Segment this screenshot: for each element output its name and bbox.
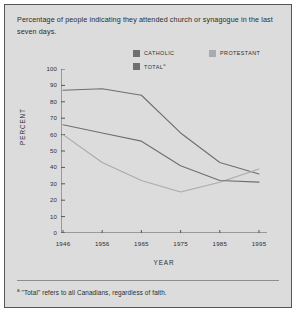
legend-item-protestant: PROTESTANT bbox=[209, 48, 260, 58]
y-axis-tick-label: 30 bbox=[35, 181, 57, 187]
footnote-marker: a bbox=[17, 288, 20, 293]
data-line-protestant bbox=[63, 135, 259, 192]
legend-label-protestant: PROTESTANT bbox=[220, 50, 260, 56]
x-axis-tick-label: 1985 bbox=[213, 240, 228, 247]
y-axis-tick-label: 60 bbox=[35, 132, 57, 138]
x-axis-title: YEAR bbox=[61, 259, 267, 266]
x-axis-tick-label: 1975 bbox=[173, 240, 188, 247]
footnote: a "Total" refers to all Canadians, regar… bbox=[17, 286, 281, 297]
y-axis-tick-label: 0 bbox=[35, 230, 57, 236]
x-axis-tick-labels: 194619561965197519851995 bbox=[61, 240, 267, 250]
chart-figure: Percentage of people indicating they att… bbox=[4, 4, 292, 308]
y-axis-tick-labels: 1009080706050403020100 bbox=[31, 69, 57, 233]
y-axis-tick-label: 40 bbox=[35, 164, 57, 170]
data-line-total bbox=[63, 125, 259, 182]
plot-area bbox=[61, 69, 267, 233]
y-axis-tick-label: 70 bbox=[35, 115, 57, 121]
legend-item-catholic: CATHOLIC bbox=[133, 48, 174, 58]
y-axis-tick-label: 90 bbox=[35, 82, 57, 88]
y-axis-tick-label: 80 bbox=[35, 99, 57, 105]
legend-swatch-protestant bbox=[209, 50, 216, 57]
x-axis-tick-label: 1946 bbox=[56, 240, 71, 247]
legend-swatch-catholic bbox=[133, 50, 140, 57]
legend-label-total-marker: a bbox=[163, 62, 166, 67]
y-axis-tick-label: 100 bbox=[35, 66, 57, 72]
x-axis-tick-label: 1956 bbox=[95, 240, 110, 247]
chart-title: Percentage of people indicating they att… bbox=[17, 14, 283, 37]
plot-svg bbox=[61, 69, 267, 233]
y-axis-title: PERCENT bbox=[19, 97, 26, 157]
footnote-divider bbox=[17, 280, 279, 281]
y-axis-tick-label: 10 bbox=[35, 214, 57, 220]
footnote-text: "Total" refers to all Canadians, regardl… bbox=[22, 289, 167, 296]
x-axis-tick-label: 1995 bbox=[252, 240, 267, 247]
y-axis-tick-label: 50 bbox=[35, 148, 57, 154]
x-axis-tick-label: 1965 bbox=[134, 240, 149, 247]
y-axis-tick-label: 20 bbox=[35, 197, 57, 203]
legend-label-catholic: CATHOLIC bbox=[144, 50, 174, 56]
